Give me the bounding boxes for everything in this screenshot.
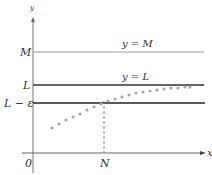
label-y-equals-L: y = L: [121, 71, 149, 82]
origin-label: 0: [25, 157, 32, 170]
x-axis-label: x: [207, 147, 212, 158]
label-y-equals-M: y = M: [121, 38, 153, 49]
label-N: N: [99, 157, 110, 170]
sequence-dots: [50, 85, 191, 129]
y-axis-label: y: [29, 4, 35, 12]
label-L-minus-epsilon: L − ε: [3, 97, 34, 110]
limit-diagram: y x 0 M y = M L y = L L − ε N: [0, 0, 212, 175]
x-axis-arrow-icon: [200, 151, 206, 155]
label-M: M: [19, 46, 32, 59]
y-axis-arrow-icon: [31, 17, 35, 22]
label-L: L: [22, 79, 30, 92]
